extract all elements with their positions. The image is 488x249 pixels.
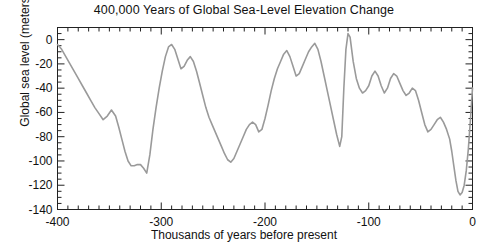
chart-plot-area: 0-20-40-60-80-100-120-140 -400-300-200-1…: [0, 0, 488, 249]
svg-text:-40: -40: [35, 81, 53, 95]
svg-text:0: 0: [46, 33, 53, 47]
svg-text:-400: -400: [45, 215, 69, 229]
svg-text:-100: -100: [357, 215, 381, 229]
sea-level-data-line: [58, 34, 473, 195]
svg-text:-20: -20: [35, 57, 53, 71]
sea-level-chart-figure: 400,000 Years of Global Sea-Level Elevat…: [0, 0, 488, 249]
svg-text:-120: -120: [28, 178, 52, 192]
x-axis-ticks: -400-300-200-1000: [45, 28, 476, 229]
svg-text:-300: -300: [149, 215, 173, 229]
svg-text:-80: -80: [35, 130, 53, 144]
svg-text:-100: -100: [28, 154, 52, 168]
svg-text:0: 0: [469, 215, 476, 229]
y-axis-ticks: 0-20-40-60-80-100-120-140: [28, 28, 472, 217]
svg-text:-200: -200: [253, 215, 277, 229]
svg-text:-60: -60: [35, 105, 53, 119]
